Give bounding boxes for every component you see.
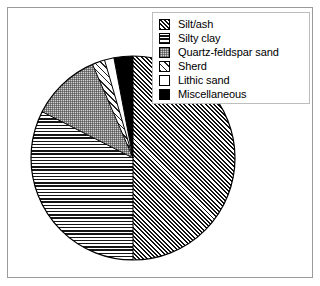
diagonal-hatch-swatch: [159, 19, 170, 30]
horizontal-lines-swatch: [159, 33, 170, 44]
legend-item-label: Silt/ash: [178, 18, 213, 30]
legend-item[interactable]: Silt/ash: [159, 17, 305, 31]
legend-item-label: Quartz-feldspar sand: [178, 46, 279, 58]
legend-item-label: Silty clay: [178, 32, 220, 44]
legend-item[interactable]: Sherd: [159, 59, 305, 73]
legend-item[interactable]: Lithic sand: [159, 73, 305, 87]
legend-item-label: Miscellaneous: [178, 88, 246, 100]
legend-item[interactable]: Quartz-feldspar sand: [159, 45, 305, 59]
light-diagonal-hatch-swatch: [159, 61, 170, 72]
stipple-swatch: [159, 47, 170, 58]
solid-black-swatch: [159, 89, 170, 100]
pie-chart-figure: Silt/ashSilty clayQuartz-feldspar sandSh…: [0, 0, 320, 286]
legend-item-label: Lithic sand: [178, 74, 230, 86]
chart-legend: Silt/ashSilty clayQuartz-feldspar sandSh…: [152, 12, 310, 104]
legend-item-label: Sherd: [178, 60, 207, 72]
legend-item[interactable]: Miscellaneous: [159, 87, 305, 101]
white-swatch: [159, 75, 170, 86]
legend-item[interactable]: Silty clay: [159, 31, 305, 45]
